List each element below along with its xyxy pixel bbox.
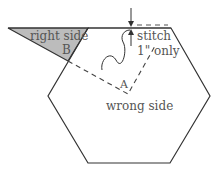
point-b-label: B: [62, 43, 71, 57]
thread-squiggle-icon: [102, 30, 130, 70]
wrong-side-label: wrong side: [106, 99, 173, 113]
stitch-label: stitch: [137, 29, 171, 43]
point-a-label: A: [119, 78, 129, 91]
arrow-down-icon: [128, 21, 134, 27]
right-side-label: right side: [30, 29, 88, 43]
stitch-amount-label: 1" only: [137, 44, 180, 58]
hexagon-seam-diagram: right side B stitch 1" only A wrong side: [0, 0, 219, 172]
